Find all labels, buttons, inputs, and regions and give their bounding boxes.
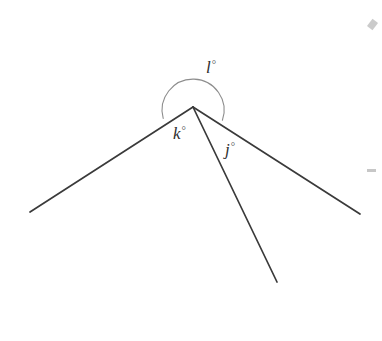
angle-label-l-letter: l xyxy=(206,58,211,77)
angle-label-k: k° xyxy=(173,125,186,142)
left-ray xyxy=(30,107,193,212)
angle-label-j: j° xyxy=(225,141,235,158)
angle-label-k-letter: k xyxy=(173,124,181,143)
angle-label-j-letter: j xyxy=(225,140,230,159)
degree-symbol-j: ° xyxy=(231,140,235,152)
degree-symbol-l: ° xyxy=(212,58,216,70)
scan-artifact-icon xyxy=(367,169,376,172)
degree-symbol-k: ° xyxy=(182,124,186,136)
angle-label-l: l° xyxy=(206,59,216,76)
diagram-svg xyxy=(0,0,382,341)
reflex-angle-arc xyxy=(162,79,224,120)
angle-diagram: l° k° j° xyxy=(0,0,382,341)
